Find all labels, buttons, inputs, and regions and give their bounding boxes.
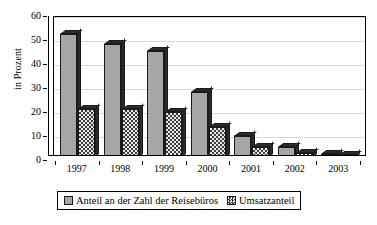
y-axis-tick-mark (43, 112, 47, 113)
y-axis-tick-mark (43, 40, 47, 41)
bar-1997-series2 (78, 109, 95, 159)
y-axis-tick-mark (43, 64, 47, 65)
legend-swatch-series1 (64, 196, 73, 205)
bar-side-face (182, 106, 186, 159)
bar-group (56, 17, 100, 159)
axis-wall-side (48, 16, 54, 160)
bar-face (165, 112, 182, 159)
bar-face (104, 44, 121, 159)
x-axis-tick-mark (360, 161, 361, 165)
plot-area (48, 16, 366, 160)
x-axis-tick-label: 1999 (141, 163, 187, 174)
bar-1999-series2 (165, 112, 182, 159)
x-axis-tick-mark (55, 161, 56, 165)
y-axis-tick-label: 50 (19, 35, 41, 45)
legend-label-series2: Umsatzanteil (239, 195, 294, 206)
y-axis-tick-label: 40 (19, 59, 41, 69)
bar-group (274, 17, 318, 159)
x-axis-tick-label: 1997 (54, 163, 100, 174)
bar-chart: in Prozent 0102030405060 199719981999200… (0, 0, 377, 225)
y-axis-tick-mark (43, 160, 47, 161)
chart-legend: Anteil an der Zahl der Reisebüros Umsatz… (57, 191, 301, 210)
x-axis-tick-label: 1998 (97, 163, 143, 174)
bar-face (78, 109, 95, 159)
y-axis-tick-label: 60 (19, 11, 41, 21)
bar-group (230, 17, 274, 159)
y-axis-tick-mark (43, 16, 47, 17)
y-axis-title: in Prozent (12, 19, 26, 119)
bar-side-face (139, 103, 143, 159)
bar-group (143, 17, 187, 159)
bar-side-face (95, 103, 99, 159)
bar-group (100, 17, 144, 159)
legend-swatch-series2 (227, 196, 236, 205)
axis-floor (48, 155, 366, 161)
bar-1998-series1 (104, 44, 121, 159)
bar-1998-series2 (122, 109, 139, 159)
bar-group (187, 17, 231, 159)
x-axis-tick-label: 2003 (315, 163, 361, 174)
bar-face (60, 34, 77, 159)
y-axis-tick-label: 0 (19, 155, 41, 165)
y-axis-tick-mark (43, 88, 47, 89)
bar-face (191, 92, 208, 159)
x-axis-tick-label: 2000 (185, 163, 231, 174)
y-axis-tick-label: 30 (19, 83, 41, 93)
x-axis-tick-label: 2001 (228, 163, 274, 174)
bar-1999-series1 (147, 51, 164, 159)
legend-item-series1: Anteil an der Zahl der Reisebüros (64, 195, 218, 206)
bar-group (317, 17, 361, 159)
y-axis-tick-mark (43, 136, 47, 137)
y-axis-tick-label: 20 (19, 107, 41, 117)
bar-face (147, 51, 164, 159)
legend-item-series2: Umsatzanteil (227, 195, 294, 206)
y-axis-tick-label: 10 (19, 131, 41, 141)
bar-2000-series1 (191, 92, 208, 159)
x-axis-tick-label: 2002 (272, 163, 318, 174)
bar-1997-series1 (60, 34, 77, 159)
legend-label-series1: Anteil an der Zahl der Reisebüros (76, 195, 218, 206)
bar-face (122, 109, 139, 159)
